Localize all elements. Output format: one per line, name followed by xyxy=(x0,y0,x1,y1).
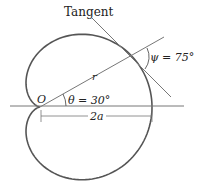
radius-label: r xyxy=(92,72,97,82)
tangent-label: Tangent xyxy=(64,6,113,18)
cardioid-diagram: Tangent ψ = 75° θ = 30° O r 2a xyxy=(0,0,198,187)
theta-arc xyxy=(63,94,66,106)
distance-label: 2a xyxy=(88,111,106,122)
psi-label: ψ = 75° xyxy=(150,52,194,63)
theta-label: θ = 30° xyxy=(68,95,110,106)
origin-label: O xyxy=(37,94,46,105)
cardioid-curve xyxy=(26,34,152,180)
psi-arc xyxy=(145,48,149,69)
